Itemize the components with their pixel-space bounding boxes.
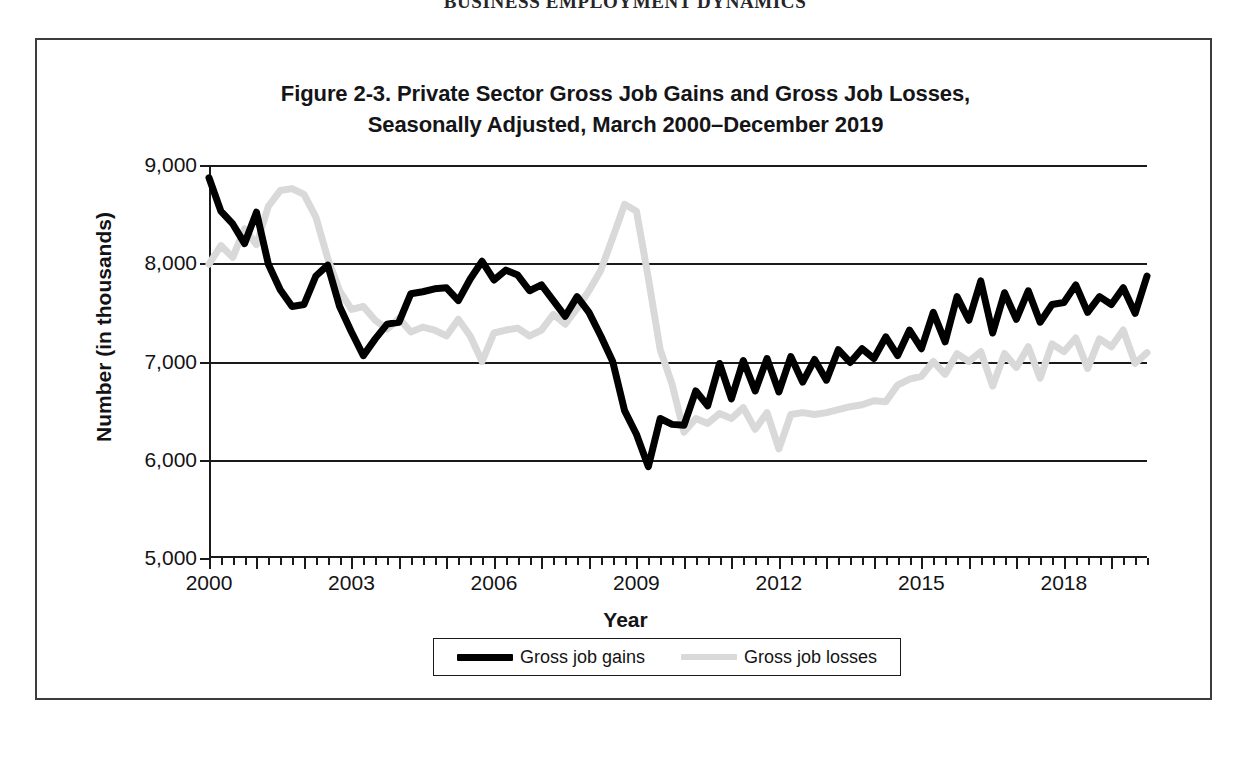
x-axis-minor-tick [482, 558, 484, 565]
x-axis-minor-tick [530, 558, 532, 565]
x-axis-major-tick [1111, 558, 1113, 569]
legend-entry: Gross job losses [681, 647, 877, 668]
x-axis-minor-tick [945, 558, 947, 565]
x-axis-tick-label: 2018 [1009, 571, 1119, 595]
x-axis-major-tick [921, 558, 923, 569]
x-axis-minor-tick [933, 558, 935, 565]
x-axis-tick-label: 2012 [724, 571, 834, 595]
series-lines [209, 165, 1147, 558]
y-axis-tick-label: 8,000 [87, 251, 197, 275]
x-axis-major-tick [446, 558, 448, 569]
x-axis-minor-tick [743, 558, 745, 565]
x-axis-tick-label: 2015 [866, 571, 976, 595]
x-axis-minor-tick [862, 558, 864, 565]
x-axis-minor-tick [1076, 558, 1078, 565]
x-axis-minor-tick [268, 558, 270, 565]
x-axis-major-tick [1016, 558, 1018, 569]
chart-title-line-2: Seasonally Adjusted, March 2000–December… [37, 109, 1214, 140]
x-axis-major-tick [589, 558, 591, 569]
x-axis-minor-tick [518, 558, 520, 565]
x-axis-minor-tick [280, 558, 282, 565]
x-axis-minor-tick [363, 558, 365, 565]
legend-swatch-icon [457, 654, 513, 661]
chart-legend: Gross job gainsGross job losses [433, 638, 901, 676]
x-axis-minor-tick [838, 558, 840, 565]
x-axis-major-tick [494, 558, 496, 569]
x-axis-tick-label: 2003 [296, 571, 406, 595]
x-axis-minor-tick [601, 558, 603, 565]
running-header: BUSINESS EMPLOYMENT DYNAMICS [0, 0, 1250, 13]
x-axis-minor-tick [340, 558, 342, 565]
x-axis-minor-tick [233, 558, 235, 565]
x-axis-minor-tick [672, 558, 674, 565]
y-axis-tick-label: 7,000 [87, 350, 197, 374]
x-axis-minor-tick [957, 558, 959, 565]
x-axis-minor-tick [1147, 558, 1149, 565]
x-axis-tick-labels: 2000200320062009201220152018 [209, 571, 1147, 599]
x-axis-minor-tick [993, 558, 995, 565]
x-axis-minor-tick [708, 558, 710, 565]
x-axis-minor-tick [886, 558, 888, 565]
x-axis-minor-tick [1100, 558, 1102, 565]
x-axis-minor-tick [1123, 558, 1125, 565]
x-axis-major-tick [874, 558, 876, 569]
x-axis-major-tick [731, 558, 733, 569]
x-axis-tick-label: 2000 [154, 571, 264, 595]
y-axis-tick [200, 362, 209, 364]
x-axis-tick-marks [209, 558, 1147, 569]
x-axis-major-tick [399, 558, 401, 569]
x-axis-minor-tick [803, 558, 805, 565]
figure-frame: Figure 2-3. Private Sector Gross Job Gai… [35, 38, 1212, 700]
x-axis-minor-tick [850, 558, 852, 565]
x-axis-minor-tick [1088, 558, 1090, 565]
series-line-gross-job-gains [209, 178, 1147, 467]
x-axis-major-tick [636, 558, 638, 569]
chart-title: Figure 2-3. Private Sector Gross Job Gai… [37, 78, 1214, 140]
y-axis-tick [200, 460, 209, 462]
x-axis-minor-tick [375, 558, 377, 565]
y-axis-tick-label: 6,000 [87, 448, 197, 472]
y-axis-tick-label: 9,000 [87, 153, 197, 177]
chart-title-line-1: Figure 2-3. Private Sector Gross Job Gai… [281, 81, 970, 106]
x-axis-minor-tick [755, 558, 757, 565]
x-axis-minor-tick [1005, 558, 1007, 565]
x-axis-minor-tick [470, 558, 472, 565]
x-axis-major-tick [209, 558, 211, 569]
x-axis-minor-tick [316, 558, 318, 565]
x-axis-title: Year [37, 608, 1214, 632]
x-axis-minor-tick [245, 558, 247, 565]
x-axis-minor-tick [981, 558, 983, 565]
x-axis-minor-tick [435, 558, 437, 565]
x-axis-minor-tick [1040, 558, 1042, 565]
x-axis-minor-tick [1135, 558, 1137, 565]
x-axis-minor-tick [577, 558, 579, 565]
y-axis-tick-marks [200, 165, 209, 558]
x-axis-minor-tick [1028, 558, 1030, 565]
x-axis-minor-tick [506, 558, 508, 565]
x-axis-minor-tick [458, 558, 460, 565]
series-line-gross-job-losses [209, 189, 1147, 449]
x-axis-minor-tick [720, 558, 722, 565]
x-axis-minor-tick [1052, 558, 1054, 565]
x-axis-minor-tick [898, 558, 900, 565]
x-axis-major-tick [304, 558, 306, 569]
x-axis-minor-tick [767, 558, 769, 565]
x-axis-major-tick [256, 558, 258, 569]
y-axis-tick [200, 558, 209, 560]
y-axis-tick-labels: 5,0006,0007,0008,0009,000 [77, 165, 197, 558]
x-axis-minor-tick [625, 558, 627, 565]
x-axis-major-tick [541, 558, 543, 569]
x-axis-major-tick [1064, 558, 1066, 569]
y-axis-tick [200, 165, 209, 167]
y-axis-tick-label: 5,000 [87, 546, 197, 570]
legend-entry: Gross job gains [457, 647, 645, 668]
x-axis-minor-tick [553, 558, 555, 565]
x-axis-minor-tick [660, 558, 662, 565]
x-axis-minor-tick [791, 558, 793, 565]
x-axis-major-tick [684, 558, 686, 569]
x-axis-minor-tick [423, 558, 425, 565]
x-axis-minor-tick [910, 558, 912, 565]
x-axis-minor-tick [815, 558, 817, 565]
legend-label: Gross job gains [520, 647, 645, 668]
x-axis-major-tick [969, 558, 971, 569]
